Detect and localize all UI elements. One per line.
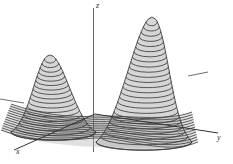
surface-plot-canvas: [0, 0, 233, 164]
x-axis-label: x: [16, 148, 20, 156]
y-axis-label: y: [217, 134, 221, 142]
right-edge-tick: [188, 72, 208, 76]
surface-body: [1, 17, 198, 150]
z-axis-label: z: [96, 2, 99, 10]
surface-plot-figure: z x y: [0, 0, 233, 164]
left-edge-tick: [0, 99, 24, 103]
